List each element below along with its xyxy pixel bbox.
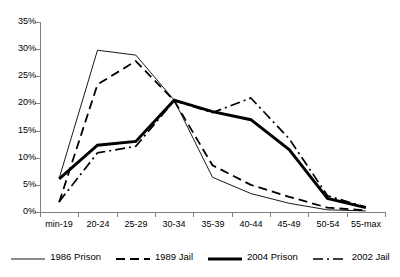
y-tick-label: 20% [2,98,36,107]
chart-legend: 1986 Prison1989 Jail2004 Prison2002 Jail [0,246,400,268]
x-tick-label: 55-max [336,219,396,230]
series-lines [0,0,400,277]
legend-swatch [312,251,348,263]
x-tick [308,212,309,217]
series-line-1989-jail [59,61,366,210]
x-tick [155,212,156,217]
legend-swatch [115,251,151,263]
legend-item-2002-jail[interactable]: 2002 Jail [312,251,390,263]
legend-label: 1986 Prison [50,252,101,262]
legend-swatch [10,251,46,263]
y-tick-label-wrap: 10% [0,153,36,162]
x-tick [193,212,194,217]
y-axis-line [40,22,41,213]
legend-item-2004-prison[interactable]: 2004 Prison [207,251,298,263]
y-tick-label: 30% [2,44,36,53]
x-tick [40,212,41,217]
y-tick-label: 0% [2,207,36,216]
x-tick [347,212,348,217]
y-tick-label-wrap: 30% [0,44,36,53]
x-tick [232,212,233,217]
y-tick-label-wrap: 35% [0,17,36,26]
legend-swatch [207,251,243,263]
series-line-1986-prison [59,50,366,211]
line-chart: 0%5%10%15%20%25%30%35% min-1920-2425-293… [0,0,400,277]
y-tick-label-wrap: 15% [0,126,36,135]
y-tick-label: 10% [2,153,36,162]
x-axis-line [40,212,385,213]
series-line-2004-prison [59,100,366,207]
legend-item-1989-jail[interactable]: 1989 Jail [115,251,193,263]
y-tick-label: 15% [2,126,36,135]
x-tick [78,212,79,217]
legend-label: 2002 Jail [352,252,390,262]
y-tick-label-wrap: 20% [0,98,36,107]
y-tick-label: 5% [2,180,36,189]
y-tick-label: 25% [2,71,36,80]
legend-item-1986-prison[interactable]: 1986 Prison [10,251,101,263]
y-tick-label: 35% [2,17,36,26]
legend-label: 2004 Prison [247,252,298,262]
series-line-2002-jail [59,98,366,207]
x-tick [117,212,118,217]
x-tick [270,212,271,217]
y-tick-label-wrap: 0% [0,207,36,216]
y-tick-label-wrap: 5% [0,180,36,189]
x-tick [385,212,386,217]
y-tick-label-wrap: 25% [0,71,36,80]
legend-label: 1989 Jail [155,252,193,262]
